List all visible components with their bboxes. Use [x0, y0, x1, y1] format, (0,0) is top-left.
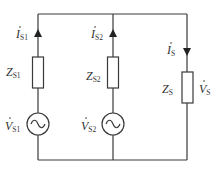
arrow-up-icon: [34, 29, 42, 37]
label-current-is: IS: [166, 42, 175, 58]
label-voltage-vs2: VS2: [81, 117, 97, 134]
impedance-zs: [182, 72, 193, 103]
label-impedance-zs2: ZS2: [86, 69, 101, 84]
label-voltage-vs: VS: [199, 80, 211, 97]
label-impedance-zs: ZS: [162, 82, 173, 97]
impedance-zs1: [33, 57, 44, 88]
svg-text:IS: IS: [166, 43, 175, 58]
impedance-zs2: [108, 57, 119, 88]
label-current-is2: IS2: [90, 26, 103, 42]
svg-text:IS2: IS2: [90, 27, 103, 42]
circuit-diagram: IS1 ZS1 VS1 IS2 ZS2 VS2 IS ZS VS: [0, 0, 217, 171]
svg-text:IS1: IS1: [15, 27, 28, 42]
arrow-down-icon: [183, 48, 191, 56]
svg-text:VS: VS: [199, 82, 211, 97]
label-impedance-zs1: ZS1: [6, 65, 21, 80]
svg-text:VS2: VS2: [81, 119, 97, 134]
label-voltage-vs1: VS1: [5, 117, 21, 134]
arrow-up-icon: [109, 29, 117, 37]
svg-text:VS1: VS1: [5, 119, 21, 134]
label-current-is1: IS1: [15, 26, 28, 42]
